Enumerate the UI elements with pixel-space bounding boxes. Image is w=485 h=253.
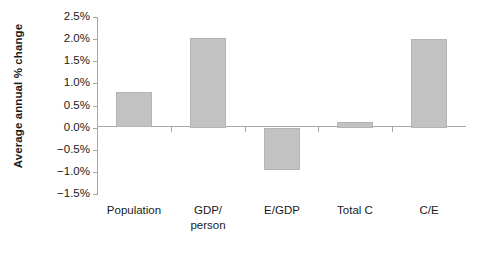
y-axis-tick-label: −1.0% — [34, 166, 90, 178]
x-axis-category-label-line: Total C — [318, 203, 392, 218]
x-axis-category-label-line: Population — [97, 203, 171, 218]
y-axis-tick-mark — [93, 194, 98, 195]
y-axis-tick-mark — [93, 83, 98, 84]
y-axis-tick-label: −0.5% — [34, 144, 90, 156]
x-axis-category-label-line: E/GDP — [245, 203, 319, 218]
y-axis-tick-label: 1.5% — [34, 55, 90, 67]
y-axis-tick-mark — [93, 61, 98, 62]
x-axis-tick-mark — [171, 127, 172, 132]
y-axis-tick-label: 0.0% — [34, 122, 90, 134]
bar-chart: Average annual % change 2.5%2.0%1.5%1.0%… — [0, 0, 485, 253]
x-axis-tick-mark — [392, 127, 393, 132]
y-axis-tick-label: 2.5% — [34, 11, 90, 23]
x-axis-category-label: E/GDP — [245, 203, 319, 218]
y-axis-tick-label: −1.5% — [34, 188, 90, 200]
y-axis-tick-label: 2.0% — [34, 33, 90, 45]
x-axis-category-label: Population — [97, 203, 171, 218]
x-axis-tick-mark — [245, 127, 246, 132]
bar — [337, 122, 373, 128]
bar — [264, 128, 300, 170]
y-axis-title: Average annual % change — [6, 0, 30, 196]
x-axis-category-label-line: GDP/ — [171, 203, 245, 218]
y-axis-tick-labels: 2.5%2.0%1.5%1.0%0.5%0.0%−0.5%−1.0%−1.5% — [32, 0, 90, 253]
x-axis-category-labels: PopulationGDP/personE/GDPTotal CC/E — [97, 203, 466, 249]
bar — [116, 92, 152, 127]
x-axis-category-label-line: C/E — [392, 203, 466, 218]
x-axis-category-label: C/E — [392, 203, 466, 218]
x-axis-tick-mark — [318, 127, 319, 132]
y-axis-tick-mark — [93, 17, 98, 18]
x-axis-category-label-line: person — [171, 218, 245, 233]
y-axis-tick-mark — [93, 150, 98, 151]
x-axis-category-label: GDP/person — [171, 203, 245, 233]
y-axis-tick-mark — [93, 39, 98, 40]
y-axis-tick-mark — [93, 172, 98, 173]
y-axis-tick-label: 0.5% — [34, 100, 90, 112]
x-axis-category-label: Total C — [318, 203, 392, 218]
y-axis-tick-mark — [93, 106, 98, 107]
y-axis-tick-mark — [93, 128, 98, 129]
bar — [190, 38, 226, 128]
y-axis-tick-label: 1.0% — [34, 77, 90, 89]
bar — [411, 39, 447, 128]
